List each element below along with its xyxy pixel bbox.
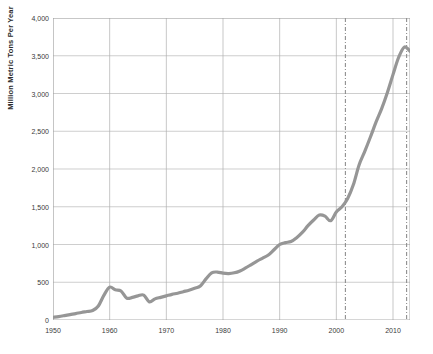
x-axis-tick-label: 1990 xyxy=(272,327,288,334)
y-axis-tick-label: 2,500 xyxy=(3,128,49,135)
y-axis-tick-label: 0 xyxy=(3,317,49,324)
chart-container: Million Metric Tons Per Year 05001,0001,… xyxy=(0,0,433,354)
x-axis-tick-label: 1970 xyxy=(159,327,175,334)
x-axis-tick-labels: 1950196019701980199020002010 xyxy=(0,327,433,347)
y-axis-tick-label: 3,500 xyxy=(3,52,49,59)
y-axis-tick-label: 3,000 xyxy=(3,90,49,97)
y-axis-tick-labels: 05001,0001,5002,0002,5003,0003,5004,000 xyxy=(0,0,49,354)
plot-area xyxy=(53,18,410,320)
x-axis-tick-label: 2000 xyxy=(329,327,345,334)
y-axis-tick-label: 1,000 xyxy=(3,241,49,248)
x-axis-tick-label: 2010 xyxy=(385,327,401,334)
plot-svg xyxy=(53,18,410,320)
x-axis-tick-label: 1960 xyxy=(102,327,118,334)
data-series-line xyxy=(53,47,410,317)
y-axis-tick-label: 1,500 xyxy=(3,203,49,210)
y-axis-tick-label: 500 xyxy=(3,279,49,286)
y-axis-tick-label: 4,000 xyxy=(3,15,49,22)
x-axis-tick-label: 1980 xyxy=(215,327,231,334)
y-axis-tick-label: 2,000 xyxy=(3,166,49,173)
x-axis-tick-label: 1950 xyxy=(45,327,61,334)
